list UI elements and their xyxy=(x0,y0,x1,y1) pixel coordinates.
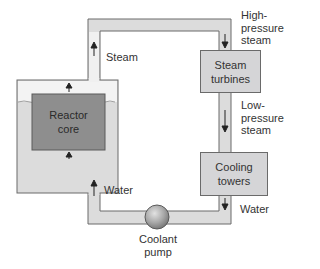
coolant-pump-circle xyxy=(145,205,169,229)
steam-turbines-box: Steam turbines xyxy=(200,50,261,93)
coolant-pump-label: Coolant pump xyxy=(138,233,178,258)
water-left-label: Water xyxy=(104,184,133,197)
cooling-towers-box: Cooling towers xyxy=(200,152,268,196)
high-pressure-steam-label: High- pressure steam xyxy=(241,9,284,47)
steam-label: Steam xyxy=(106,51,138,64)
cooling-towers-label: Cooling towers xyxy=(215,160,252,188)
reactor-core-label: Reactor core xyxy=(32,94,105,150)
water-right-label: Water xyxy=(240,203,269,216)
low-pressure-steam-label: Low- pressure steam xyxy=(241,99,284,137)
steam-turbines-label: Steam turbines xyxy=(211,58,250,86)
